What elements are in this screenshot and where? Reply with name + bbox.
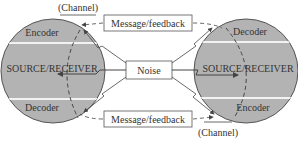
right-center-label: SOURCE/RECEIVER: [202, 63, 293, 74]
top-message-label: Message/feedback: [111, 18, 185, 29]
right-encoder-label: Encoder: [236, 102, 270, 113]
noise-label: Noise: [137, 65, 161, 76]
left-lower-band: [0, 98, 110, 100]
right-lower-band: [190, 97, 298, 99]
right-decoder-label: Decoder: [233, 26, 268, 37]
top-channel-label: (Channel): [58, 2, 98, 14]
bottom-channel: Message/feedback (Channel): [80, 111, 238, 139]
left-center-label: SOURCE/RECEIVER: [6, 63, 97, 74]
bottom-dashed-arrow-right: [193, 117, 213, 119]
bottom-channel-label: (Channel): [198, 127, 238, 139]
communication-diagram: Encoder SOURCE/RECEIVER Decoder Decoder …: [0, 0, 298, 143]
bottom-dashed-line-left: [80, 114, 103, 119]
left-encoder-label: Encoder: [25, 27, 59, 38]
bottom-message-label: Message/feedback: [111, 114, 185, 125]
top-dashed-arrow-left: [82, 23, 103, 25]
left-source-receiver: Encoder SOURCE/RECEIVER Decoder: [0, 19, 110, 123]
left-decoder-label: Decoder: [25, 102, 60, 113]
right-upper-band: [190, 41, 298, 43]
top-channel: (Channel) Message/feedback: [58, 2, 222, 31]
